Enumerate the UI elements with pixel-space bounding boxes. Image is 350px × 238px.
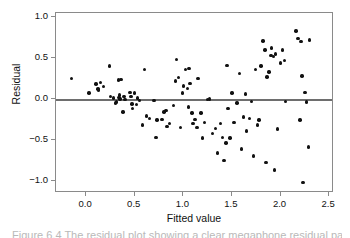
data-point — [203, 121, 206, 124]
x-axis-tick-label: 2.0 — [260, 199, 300, 209]
data-point — [129, 95, 132, 98]
figure-caption: Figure 6.4 The residual plot showing a c… — [12, 229, 342, 238]
data-point — [141, 123, 144, 126]
x-axis-tick-label: 0.5 — [114, 199, 154, 209]
data-point — [300, 74, 303, 77]
data-point — [276, 127, 279, 130]
data-point — [232, 121, 235, 124]
data-point — [99, 81, 102, 84]
data-point — [118, 97, 121, 100]
x-axis-tick-label: 0.0 — [65, 199, 105, 209]
data-point — [308, 38, 311, 41]
data-point — [235, 101, 238, 104]
data-point — [160, 118, 163, 121]
data-point — [154, 136, 157, 139]
x-axis-tick — [231, 192, 232, 196]
data-point — [199, 111, 202, 114]
data-point — [238, 72, 241, 75]
x-axis-tick — [280, 192, 281, 196]
data-point — [179, 126, 182, 129]
scatter-points-layer — [56, 13, 332, 191]
data-point — [143, 68, 146, 71]
data-point — [307, 145, 310, 148]
data-point — [164, 109, 167, 112]
data-point — [270, 46, 273, 49]
x-axis-label: Fitted value — [55, 212, 333, 224]
y-axis-tick — [51, 139, 55, 140]
data-point — [168, 122, 171, 125]
data-point — [191, 122, 194, 125]
data-point — [186, 87, 189, 90]
data-point — [250, 100, 253, 103]
data-point — [254, 68, 257, 71]
y-axis-tick-label: −0.5 — [29, 134, 48, 144]
data-point — [112, 96, 115, 99]
data-point — [299, 40, 302, 43]
data-point — [263, 48, 266, 51]
data-point — [214, 127, 217, 130]
y-axis-label: Residual — [10, 44, 22, 124]
data-point — [201, 136, 204, 139]
data-point — [115, 100, 118, 103]
data-point — [195, 126, 198, 129]
data-point — [240, 147, 243, 150]
data-point — [208, 97, 211, 100]
data-point — [97, 88, 100, 91]
data-point — [182, 84, 185, 87]
data-point — [245, 129, 248, 132]
data-point — [242, 115, 245, 118]
data-point — [102, 85, 105, 88]
data-point — [138, 99, 141, 102]
y-axis-tick-label: 0.5 — [35, 52, 48, 62]
data-point — [148, 117, 151, 120]
data-point — [177, 76, 180, 79]
data-point — [184, 68, 187, 71]
data-point — [190, 111, 193, 114]
data-point — [267, 70, 270, 73]
data-point — [108, 64, 111, 67]
data-point — [219, 122, 222, 125]
data-point — [128, 91, 131, 94]
data-point — [305, 100, 308, 103]
data-point — [283, 59, 286, 62]
data-point — [301, 181, 304, 184]
plot-frame — [55, 12, 333, 192]
data-point — [244, 92, 247, 95]
data-point — [294, 29, 297, 32]
data-point — [135, 103, 138, 106]
data-point — [193, 118, 196, 121]
data-point — [259, 64, 262, 67]
data-point — [222, 159, 225, 162]
data-point — [257, 118, 260, 121]
y-axis-tick-label: 1.0 — [35, 11, 48, 21]
data-point — [284, 100, 287, 103]
data-point — [221, 136, 224, 139]
data-point — [196, 77, 199, 80]
data-point — [256, 123, 259, 126]
data-point — [155, 118, 158, 121]
y-axis-tick — [51, 57, 55, 58]
data-point — [228, 136, 231, 139]
data-point — [119, 78, 122, 81]
x-axis-tick-label: 1.5 — [211, 199, 251, 209]
data-point — [152, 99, 155, 102]
data-point — [123, 98, 126, 101]
data-point — [226, 107, 229, 110]
data-point — [175, 58, 178, 61]
data-point — [279, 61, 282, 64]
data-point — [94, 82, 97, 85]
y-axis-tick-label: 0.0 — [35, 93, 48, 103]
data-point — [70, 77, 73, 80]
x-axis-tick — [328, 192, 329, 196]
y-axis-tick — [51, 16, 55, 17]
data-point — [187, 67, 190, 70]
residual-plot-figure: 1.00.50.0−0.5−1.00.00.51.01.52.02.5 Resi… — [0, 0, 350, 238]
data-point — [165, 125, 168, 128]
data-point — [225, 64, 228, 67]
x-axis-tick — [182, 192, 183, 196]
data-point — [252, 154, 255, 157]
data-point — [211, 132, 214, 135]
data-point — [118, 93, 121, 96]
data-point — [273, 168, 276, 171]
data-point — [130, 102, 133, 105]
